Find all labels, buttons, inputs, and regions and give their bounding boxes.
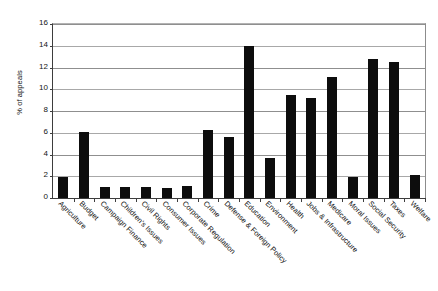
- bar: [348, 177, 358, 198]
- x-axis-labels: AgricultureBudgetCampaign FinanceChildre…: [52, 199, 424, 291]
- bar: [224, 137, 234, 198]
- y-tick-mark: [50, 46, 54, 47]
- bars-layer: [53, 24, 425, 198]
- y-tick-label: 12: [8, 62, 48, 71]
- bar: [368, 59, 378, 198]
- y-tick-mark: [50, 68, 54, 69]
- y-tick-label: 16: [8, 18, 48, 27]
- y-tick-label: 6: [8, 127, 48, 136]
- x-tick-mark: [425, 198, 426, 202]
- y-tick-label: 2: [8, 170, 48, 179]
- bar: [389, 62, 399, 198]
- bar: [162, 188, 172, 198]
- bar: [410, 175, 420, 198]
- plot-area: [52, 23, 426, 199]
- y-tick-label: 10: [8, 83, 48, 92]
- bar: [79, 132, 89, 198]
- bar: [182, 186, 192, 199]
- y-tick-mark: [50, 24, 54, 25]
- y-tick-label: 0: [8, 192, 48, 201]
- bar-chart: % of appeals 0246810121416 AgricultureBu…: [0, 0, 438, 291]
- bar: [306, 98, 316, 198]
- y-tick-mark: [50, 155, 54, 156]
- bar: [327, 77, 337, 198]
- bar: [100, 187, 110, 198]
- bar: [141, 187, 151, 198]
- y-tick-mark: [50, 133, 54, 134]
- bar: [286, 95, 296, 198]
- x-tick-label: Welfare: [408, 199, 433, 224]
- bar: [265, 158, 275, 198]
- y-tick-label: 14: [8, 40, 48, 49]
- bar: [244, 46, 254, 198]
- y-tick-mark: [50, 176, 54, 177]
- y-tick-label: 4: [8, 149, 48, 158]
- bar: [120, 187, 130, 198]
- bar: [58, 177, 68, 198]
- y-tick-mark: [50, 111, 54, 112]
- y-tick-label: 8: [8, 105, 48, 114]
- y-tick-mark: [50, 89, 54, 90]
- bar: [203, 130, 213, 199]
